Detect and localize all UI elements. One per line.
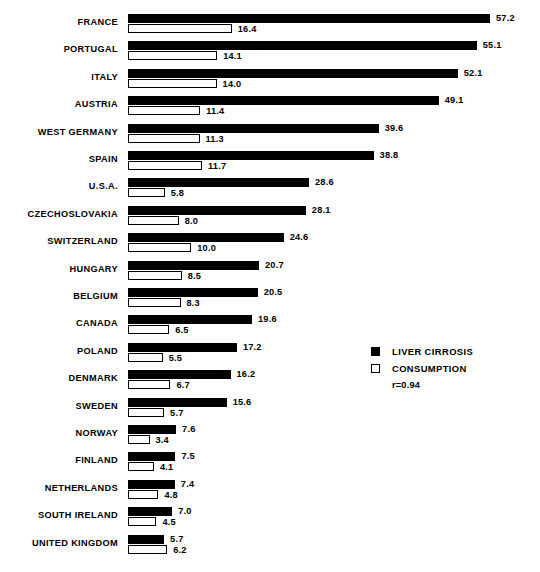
bar-value-consumption: 14.1 [223,52,242,61]
chart-row: ITALY52.114.0 [0,69,540,96]
bar-value-liver-cirrosis: 20.5 [264,288,283,297]
correlation-annotation: r=0.94 [392,380,536,390]
bar-consumption [128,79,217,88]
bar-value-liver-cirrosis: 7.4 [181,480,194,489]
bar-value-liver-cirrosis: 20.7 [265,261,284,270]
bar-liver-cirrosis [128,507,172,516]
chart-row: SPAIN38.811.7 [0,151,540,178]
bar-consumption [128,161,202,170]
bar-chart: FRANCE57.216.4PORTUGAL55.114.1ITALY52.11… [0,0,540,572]
bar-liver-cirrosis [128,178,309,187]
bar-liver-cirrosis [128,425,176,434]
legend-entry-consumption: CONSUMPTION [371,361,536,376]
bar-value-consumption: 3.4 [156,436,169,445]
category-label: AUSTRIA [0,98,118,110]
bar-consumption [128,298,181,307]
category-label: POLAND [0,345,118,357]
chart-row: NETHERLANDS7.44.8 [0,480,540,507]
bar-value-liver-cirrosis: 7.5 [181,452,194,461]
bar-liver-cirrosis [128,315,252,324]
bar-value-liver-cirrosis: 55.1 [483,41,502,50]
chart-row: CZECHOSLOVAKIA28.18.0 [0,206,540,233]
bar-value-consumption: 6.2 [173,546,186,555]
category-label: CZECHOSLOVAKIA [0,208,118,220]
bar-consumption [128,545,167,554]
legend-label-consumption: CONSUMPTION [392,363,467,374]
bar-value-consumption: 10.0 [197,244,216,253]
bar-liver-cirrosis [128,124,379,133]
bar-liver-cirrosis [128,206,306,215]
bar-value-consumption: 4.8 [164,491,177,500]
chart-row: SWEDEN15.65.7 [0,398,540,425]
bar-consumption [128,216,179,225]
bar-consumption [128,490,158,499]
category-label: WEST GERMANY [0,126,118,138]
bar-value-liver-cirrosis: 28.1 [312,206,331,215]
bar-value-liver-cirrosis: 7.0 [178,507,191,516]
filled-square-icon [371,347,380,356]
bar-liver-cirrosis [128,261,259,270]
bar-liver-cirrosis [128,480,175,489]
bar-value-liver-cirrosis: 16.2 [237,370,256,379]
bar-value-liver-cirrosis: 15.6 [233,398,252,407]
bar-value-liver-cirrosis: 24.6 [290,233,309,242]
bar-liver-cirrosis [128,69,458,78]
category-label: FINLAND [0,454,118,466]
bar-value-consumption: 4.1 [160,463,173,472]
chart-row: U.S.A.28.65.8 [0,178,540,205]
bar-value-liver-cirrosis: 5.7 [170,535,183,544]
category-label: SWEDEN [0,400,118,412]
bar-liver-cirrosis [128,41,477,50]
bar-value-consumption: 5.8 [171,189,184,198]
bar-consumption [128,435,150,444]
bar-consumption [128,462,154,471]
bar-consumption [128,271,182,280]
bar-liver-cirrosis [128,452,175,461]
bar-value-liver-cirrosis: 7.6 [182,425,195,434]
bar-value-liver-cirrosis: 19.6 [258,315,277,324]
bar-liver-cirrosis [128,343,237,352]
bar-value-liver-cirrosis: 38.8 [380,151,399,160]
category-label: ITALY [0,71,118,83]
category-label: PORTUGAL [0,43,118,55]
bar-liver-cirrosis [128,14,490,23]
category-label: DENMARK [0,372,118,384]
bar-consumption [128,380,170,389]
category-label: SOUTH IRELAND [0,509,118,521]
bar-value-liver-cirrosis: 57.2 [496,14,515,23]
bar-consumption [128,408,164,417]
bar-value-consumption: 8.3 [187,299,200,308]
bar-liver-cirrosis [128,535,164,544]
bar-value-consumption: 6.5 [175,326,188,335]
bar-consumption [128,106,200,115]
bar-value-consumption: 4.5 [162,518,175,527]
chart-row: UNITED KINGDOM5.76.2 [0,535,540,562]
bar-liver-cirrosis [128,151,374,160]
bar-value-consumption: 8.5 [188,272,201,281]
bar-liver-cirrosis [128,233,284,242]
open-square-icon [371,364,380,373]
bar-consumption [128,517,156,526]
bar-value-consumption: 16.4 [238,25,257,34]
chart-row: CANADA19.66.5 [0,315,540,342]
chart-legend: LIVER CIRROSIS CONSUMPTION r=0.94 [371,344,536,390]
category-label: SPAIN [0,153,118,165]
bar-consumption [128,188,165,197]
chart-row: PORTUGAL55.114.1 [0,41,540,68]
bar-liver-cirrosis [128,398,227,407]
category-label: SWITZERLAND [0,235,118,247]
bar-consumption [128,243,191,252]
category-label: UNITED KINGDOM [0,537,118,549]
chart-row: FRANCE57.216.4 [0,14,540,41]
category-label: CANADA [0,317,118,329]
bar-value-consumption: 5.7 [170,409,183,418]
legend-entry-liver-cirrosis: LIVER CIRROSIS [371,344,536,359]
bar-value-consumption: 14.0 [223,80,242,89]
bar-liver-cirrosis [128,370,231,379]
category-label: NORWAY [0,427,118,439]
chart-row: NORWAY7.63.4 [0,425,540,452]
chart-row: HUNGARY20.78.5 [0,261,540,288]
bar-value-liver-cirrosis: 28.6 [315,178,334,187]
bar-value-liver-cirrosis: 49.1 [445,96,464,105]
category-label: NETHERLANDS [0,482,118,494]
